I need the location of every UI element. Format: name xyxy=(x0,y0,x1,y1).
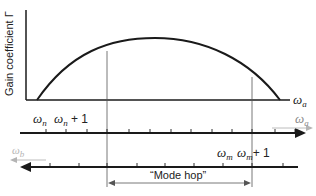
arrow-left-icon xyxy=(20,162,31,172)
omega-b-direction-label: ωb xyxy=(12,145,24,159)
gain-curve xyxy=(37,38,280,100)
diagram-canvas xyxy=(0,0,316,196)
y-axis-label: Gain coefficient Γ xyxy=(3,11,15,96)
tick-label-omega-n: ωn xyxy=(33,112,47,128)
mode-hop-label: “Mode hop” xyxy=(150,170,206,181)
tick-label-omega-n-plus-1: ωn + 1 xyxy=(54,112,88,128)
x-axis-label: ωa xyxy=(293,93,307,109)
mode-hop-diagram: Gain coefficient Γ ωa ωn ωn + 1 ωa ωb ωm… xyxy=(0,0,316,196)
arrow-right-icon xyxy=(295,128,306,138)
mode-axis-a xyxy=(20,128,306,138)
tick-label-omega-m: ωm xyxy=(217,146,233,162)
tick-label-omega-m-plus-1: ωm+ 1 xyxy=(237,146,270,162)
omega-a-direction-label: ωa xyxy=(295,112,309,128)
